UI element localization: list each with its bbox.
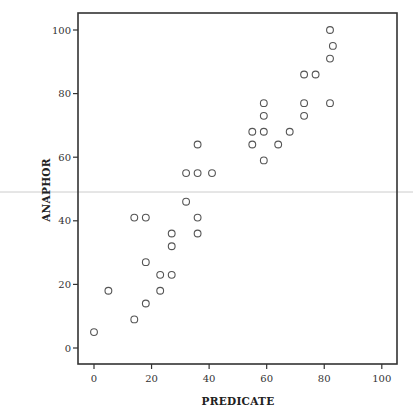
data-point bbox=[91, 329, 98, 336]
data-point bbox=[249, 128, 256, 135]
x-axis: 020406080100 bbox=[91, 364, 392, 384]
data-point bbox=[142, 214, 149, 221]
data-point bbox=[194, 141, 201, 148]
plot-frame bbox=[78, 13, 397, 364]
y-tick-label: 20 bbox=[58, 279, 71, 290]
x-tick-label: 40 bbox=[203, 373, 216, 384]
data-point bbox=[327, 55, 334, 62]
data-point bbox=[131, 316, 138, 323]
data-points bbox=[91, 27, 337, 336]
data-point bbox=[260, 128, 267, 135]
data-point bbox=[301, 100, 308, 107]
data-point bbox=[157, 287, 164, 294]
data-point bbox=[131, 214, 138, 221]
data-point bbox=[312, 71, 319, 78]
data-point bbox=[157, 271, 164, 278]
y-axis: 020406080100 bbox=[52, 25, 78, 354]
x-tick-label: 20 bbox=[145, 373, 158, 384]
x-axis-title: PREDICATE bbox=[201, 395, 274, 407]
x-tick-label: 100 bbox=[372, 373, 391, 384]
y-axis-title: ANAPHOR bbox=[40, 158, 52, 223]
data-point bbox=[249, 141, 256, 148]
data-point bbox=[327, 100, 334, 107]
data-point bbox=[301, 112, 308, 119]
data-point bbox=[260, 100, 267, 107]
data-point bbox=[329, 43, 336, 50]
x-tick-label: 80 bbox=[318, 373, 331, 384]
data-point bbox=[260, 112, 267, 119]
data-point bbox=[194, 214, 201, 221]
data-point bbox=[105, 287, 112, 294]
data-point bbox=[168, 271, 175, 278]
y-tick-label: 40 bbox=[58, 215, 71, 226]
data-point bbox=[286, 128, 293, 135]
data-point bbox=[142, 300, 149, 307]
x-tick-label: 60 bbox=[260, 373, 273, 384]
data-point bbox=[194, 230, 201, 237]
data-point bbox=[183, 170, 190, 177]
data-point bbox=[327, 27, 334, 34]
data-point bbox=[183, 198, 190, 205]
scatter-chart: 020406080100 020406080100 PREDICATE ANAP… bbox=[0, 0, 413, 417]
data-point bbox=[301, 71, 308, 78]
data-point bbox=[168, 230, 175, 237]
data-point bbox=[168, 243, 175, 250]
x-tick-label: 0 bbox=[91, 373, 97, 384]
y-tick-label: 80 bbox=[58, 88, 71, 99]
y-tick-label: 100 bbox=[52, 25, 71, 36]
y-tick-label: 0 bbox=[65, 343, 71, 354]
data-point bbox=[209, 170, 216, 177]
y-tick-label: 60 bbox=[58, 152, 71, 163]
data-point bbox=[275, 141, 282, 148]
data-point bbox=[142, 259, 149, 266]
data-point bbox=[260, 157, 267, 164]
data-point bbox=[194, 170, 201, 177]
